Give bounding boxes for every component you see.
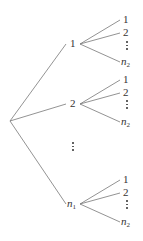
node-level1-1: 1 (70, 38, 76, 49)
leaf-1-2: 2 (123, 27, 129, 38)
leaf-2-2: 2 (123, 87, 129, 98)
leaf-2-n2: n2 (121, 116, 130, 131)
leaf-n1-2: 2 (123, 187, 129, 198)
node-level1-2: 2 (70, 98, 76, 109)
leaf-1-ellipsis (125, 41, 129, 52)
leaf-2-ellipsis (125, 100, 129, 111)
node-level1-ellipsis (71, 142, 75, 153)
leaf-1-1: 1 (123, 14, 129, 25)
subscript: 2 (127, 121, 131, 129)
leaf-n1-n2: n2 (121, 216, 130, 231)
subscript: 2 (127, 221, 131, 229)
subscript: 2 (127, 61, 131, 69)
leaf-n1-1: 1 (123, 174, 129, 185)
leaf-n1-ellipsis (125, 200, 129, 211)
leaf-1-n2: n2 (121, 56, 130, 71)
subscript: 1 (73, 203, 77, 211)
node-level1-n1: n1 (67, 198, 76, 213)
leaf-2-1: 1 (123, 74, 129, 85)
